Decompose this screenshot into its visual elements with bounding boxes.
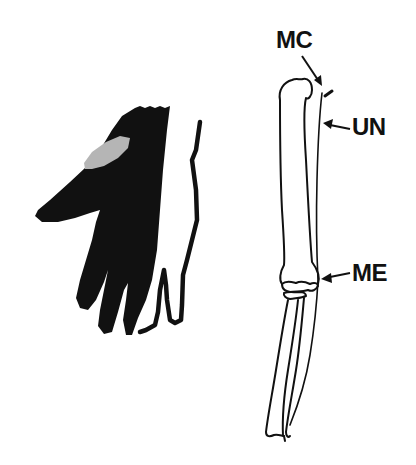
hand-silhouette bbox=[35, 106, 170, 335]
mc-arrow-line bbox=[302, 56, 318, 80]
un-arrow-line bbox=[330, 125, 350, 129]
distal-stub bbox=[284, 436, 285, 441]
arm-bones-illustration bbox=[266, 79, 322, 441]
forearm-proximal bbox=[284, 292, 306, 299]
mc-pointer bbox=[302, 56, 332, 96]
me-arrow-head bbox=[321, 273, 332, 283]
label-mc: MC bbox=[276, 28, 312, 52]
humerus-condyle bbox=[282, 282, 318, 292]
label-un: UN bbox=[352, 115, 386, 139]
me-arrow-line bbox=[330, 273, 350, 277]
un-arrow-head bbox=[323, 119, 333, 129]
mc-marker bbox=[325, 91, 332, 96]
humerus bbox=[280, 79, 319, 284]
hand-illustration bbox=[35, 106, 200, 335]
me-pointer bbox=[321, 273, 350, 283]
label-me: ME bbox=[352, 261, 387, 285]
figure: MC UN ME bbox=[0, 0, 416, 465]
figure-svg bbox=[0, 0, 416, 465]
un-pointer bbox=[323, 119, 350, 129]
